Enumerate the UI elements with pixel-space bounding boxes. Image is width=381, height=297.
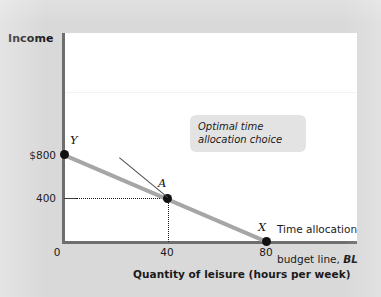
data-point-label-x: X [258,220,266,234]
data-point-y [60,150,69,159]
y-axis-title: Income [8,32,54,45]
guide-line-horizontal-400 [76,198,168,199]
economics-budget-line-figure: Income Quantity of leisure (hours per we… [0,0,381,297]
x-axis-title: Quantity of leisure (hours per week) [133,268,351,280]
budget-line-annotation-emphasis: BL [343,253,358,265]
optimal-choice-callout: Optimal time allocation choice [190,115,306,152]
x-tick-label-0: 0 [37,246,77,258]
scan-artifact-rule [64,92,357,93]
y-axis-line [62,33,65,244]
data-point-x [262,237,271,246]
budget-line-annotation-line2-prefix: budget line, [277,253,343,265]
budget-line-annotation: Time allocation budget line, BL [277,207,358,267]
guide-line-vertical-40 [168,199,169,242]
data-point-label-a: A [158,176,166,190]
x-tick-label-40: 40 [147,246,187,258]
y-tick-mark-400 [64,198,76,200]
y-tick-label-800: $800 [8,149,56,161]
data-point-label-y: Y [70,133,78,147]
y-tick-label-400: 400 [8,192,56,204]
budget-line-annotation-line1: Time allocation [277,223,357,235]
